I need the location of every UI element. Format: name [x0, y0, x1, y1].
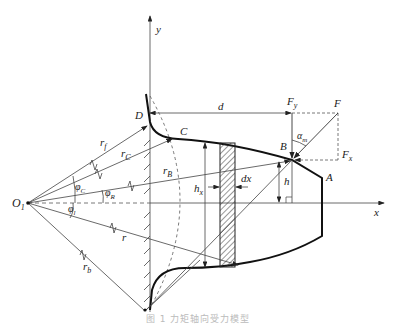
y-axis: y: [150, 16, 161, 312]
radius-rb-label: rb: [83, 260, 91, 275]
right-angle-mark: [286, 197, 292, 203]
x-axis-label: x: [373, 206, 379, 218]
dimension-d: d: [150, 100, 291, 113]
force-Fx-label: Fx: [341, 148, 353, 163]
dimension-dx-label: dx: [241, 172, 252, 184]
hatched-strip: [220, 143, 235, 267]
force-F-label: F: [333, 97, 341, 109]
radius-rf-label: rf: [100, 136, 108, 151]
point-A-label: A: [325, 171, 333, 183]
force-Fy-label: Fy: [286, 95, 298, 110]
radius-rB-label: rB: [163, 164, 172, 179]
x-axis: x: [28, 203, 384, 218]
dimension-hx-label: hx: [194, 182, 204, 197]
radial-lines: [28, 126, 292, 311]
figure-caption: 图 1 力矩轴向受力模型: [0, 312, 396, 325]
break-marks: [80, 160, 134, 260]
dimension-h-label: h: [284, 175, 290, 187]
dimension-d-label: d: [218, 100, 224, 112]
radius-rC-label: rC: [121, 147, 131, 162]
point-C-label: C: [180, 125, 188, 137]
dimension-hx: hx: [194, 143, 205, 267]
force-vectors: Fy F Fx αm: [286, 95, 353, 163]
origin-label: O1: [12, 196, 25, 212]
point-B-label: B: [280, 140, 287, 152]
dashed-arc: [150, 96, 180, 308]
angle-phiC-label: φC: [75, 181, 86, 195]
point-D-label: D: [134, 109, 143, 121]
origin-point: [26, 201, 30, 205]
radius-r-label: r: [122, 231, 127, 243]
y-axis-label: y: [155, 23, 161, 35]
wall-hatching: [144, 140, 150, 302]
